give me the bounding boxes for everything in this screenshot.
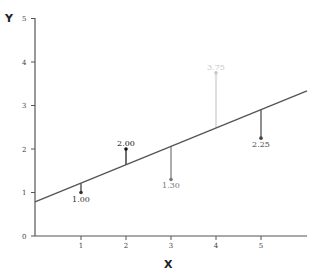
y-tick-label: 3 (22, 102, 26, 110)
x-tick-label: 2 (124, 242, 128, 250)
y-tick-label: 5 (22, 15, 26, 23)
residual-scatter-chart: 1.002.001.303.752.25 012345 12345 Y X (0, 0, 323, 278)
data-point-label: 2.25 (252, 140, 270, 149)
data-point-label: 1.30 (162, 181, 180, 190)
data-point-label: 2.00 (117, 139, 135, 148)
y-axis-ticks: 012345 (22, 15, 35, 241)
data-point-labels: 1.002.001.303.752.25 (72, 63, 270, 204)
x-tick-label: 3 (169, 242, 173, 250)
x-tick-label: 1 (79, 242, 83, 250)
y-tick-label: 0 (22, 233, 26, 241)
residual-lines (81, 73, 261, 193)
y-tick-label: 4 (22, 59, 27, 67)
y-tick-label: 2 (22, 146, 26, 154)
data-point-label: 3.75 (207, 63, 225, 72)
x-axis-ticks: 12345 (79, 236, 263, 250)
y-tick-label: 1 (22, 189, 26, 197)
x-axis-title: X (164, 258, 173, 271)
x-tick-label: 4 (214, 242, 219, 250)
y-axis-title: Y (4, 12, 14, 25)
data-point-label: 1.00 (72, 195, 90, 204)
x-tick-label: 5 (259, 242, 263, 250)
